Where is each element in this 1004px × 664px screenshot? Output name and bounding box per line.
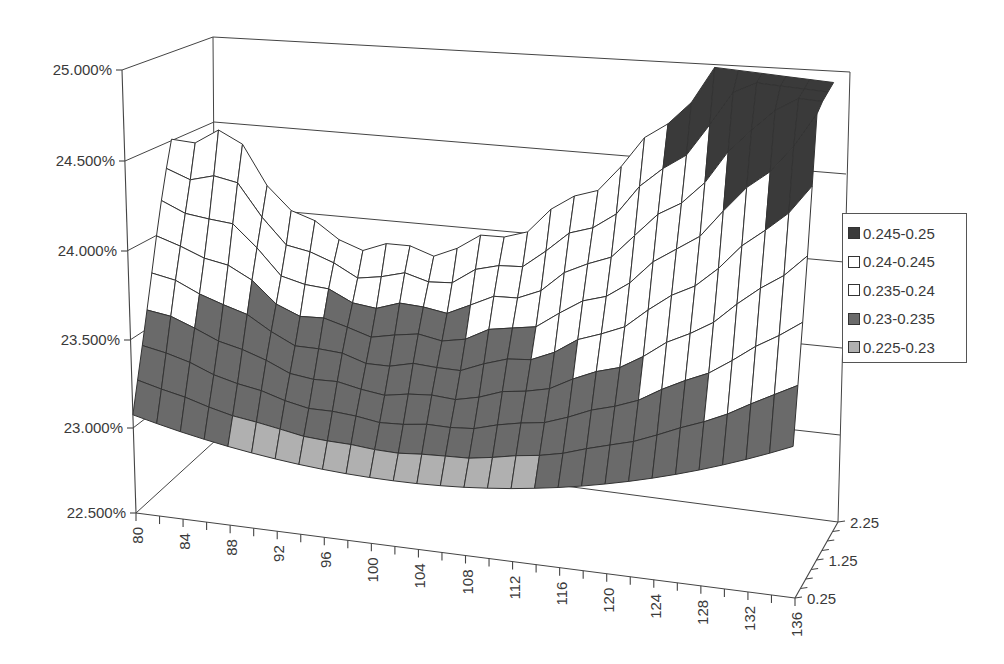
legend: 0.245-0.25 0.24-0.245 0.235-0.24 0.23-0.…: [842, 213, 967, 363]
legend-swatch-icon: [848, 256, 860, 268]
x-tick-label: 112: [506, 576, 523, 600]
legend-swatch-icon: [848, 284, 860, 296]
depth-tick: [838, 521, 845, 522]
legend-swatch-icon: [848, 313, 860, 325]
z-axis-line: [122, 70, 136, 513]
legend-swatch-icon: [848, 341, 860, 353]
depth-tick-label: 0.25: [807, 590, 836, 607]
legend-label: 0.24-0.245: [863, 253, 935, 270]
z-tick-label: 23.000%: [64, 419, 123, 436]
z-tick-label: 24.000%: [58, 242, 117, 259]
z-tick-label: 24.500%: [56, 152, 115, 169]
x-tick-label: 92: [270, 545, 287, 562]
legend-label: 0.245-0.25: [863, 225, 935, 242]
x-tick-label: 108: [459, 570, 476, 595]
x-tick-label: 128: [694, 600, 711, 625]
z-tick-label: 25.000%: [53, 61, 112, 78]
x-tick-label: 136: [788, 612, 805, 637]
legend-label: 0.23-0.235: [863, 310, 935, 327]
legend-item: 0.24-0.245: [848, 248, 966, 277]
side-wall-gridline: [122, 37, 213, 70]
x-axis-labels: 8084889296100104108112116120124128132136: [129, 513, 805, 637]
legend-label: 0.225-0.23: [863, 339, 935, 356]
x-tick-label: 88: [223, 539, 240, 556]
surface-cell: [770, 385, 798, 453]
depth-tick-label: 1.25: [829, 552, 858, 569]
legend-swatch-icon: [848, 227, 860, 239]
side-wall-gridline: [136, 440, 216, 513]
x-tick-label: 120: [600, 588, 617, 613]
x-tick-label: 100: [364, 557, 381, 582]
depth-tick-label: 2.25: [850, 514, 879, 531]
legend-item: 0.235-0.24: [848, 276, 966, 305]
depth-axis-labels: 0.251.252.25: [795, 514, 879, 607]
legend-item: 0.23-0.235: [848, 305, 966, 334]
z-tick-label: 22.500%: [67, 504, 126, 521]
x-tick-label: 124: [647, 594, 664, 619]
x-tick-label: 84: [176, 533, 193, 550]
x-tick-label: 80: [129, 527, 146, 544]
surface-mesh: [133, 67, 834, 488]
legend-item: 0.225-0.23: [848, 333, 966, 362]
x-tick-label: 96: [317, 551, 334, 568]
legend-item: 0.245-0.25: [848, 219, 966, 248]
x-tick-label: 116: [553, 582, 570, 606]
z-tick-label: 23.500%: [61, 331, 120, 348]
back-wall-gridline: [213, 37, 850, 72]
x-tick-label: 132: [741, 606, 758, 631]
legend-label: 0.235-0.24: [863, 282, 935, 299]
x-tick-label: 104: [411, 563, 428, 588]
